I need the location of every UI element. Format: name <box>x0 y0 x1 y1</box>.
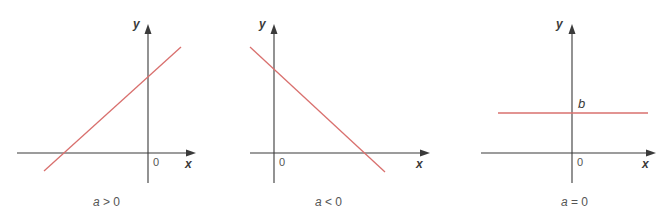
x-axis-arrow-icon <box>420 150 430 157</box>
origin-label: 0 <box>577 156 583 168</box>
panel-negative-slope: y x 0 a < 0 <box>250 17 430 209</box>
y-axis-label: y <box>132 17 141 31</box>
caption-negative-slope: a < 0 <box>315 195 342 209</box>
linear-function-diagram: y x 0 a > 0 y x 0 a < 0 y x 0 b a = 0 <box>0 0 656 220</box>
y-axis-arrow-icon <box>271 24 278 34</box>
y-axis-arrow-icon <box>569 24 576 34</box>
x-axis-label: x <box>641 157 650 171</box>
graph-line-increasing <box>44 47 181 171</box>
caption-relation: > 0 <box>100 195 121 209</box>
y-axis-arrow-icon <box>145 24 152 34</box>
x-axis-arrow-icon <box>646 150 656 157</box>
y-axis-label: y <box>258 17 267 31</box>
intercept-label: b <box>578 96 585 111</box>
caption-relation: < 0 <box>322 195 343 209</box>
y-axis-label: y <box>555 17 564 31</box>
caption-positive-slope: a > 0 <box>93 195 120 209</box>
x-axis-label: x <box>415 157 424 171</box>
x-axis-label: x <box>184 157 193 171</box>
origin-label: 0 <box>153 156 159 168</box>
caption-relation: = 0 <box>568 195 589 209</box>
x-axis-arrow-icon <box>186 150 196 157</box>
origin-label: 0 <box>279 156 285 168</box>
panel-positive-slope: y x 0 a > 0 <box>17 17 196 209</box>
panel-zero-slope: y x 0 b a = 0 <box>481 17 656 209</box>
caption-zero-slope: a = 0 <box>561 195 588 209</box>
